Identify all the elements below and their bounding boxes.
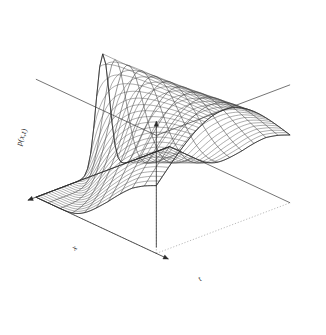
surface-plot-svg: x t p(x,t): [0, 0, 326, 335]
surface-border: [36, 54, 290, 214]
mesh-line: [91, 91, 211, 154]
box-edge: [170, 147, 290, 203]
mesh-line: [142, 112, 262, 163]
mesh-line: [164, 130, 284, 163]
mesh-line: [57, 152, 177, 198]
mesh-lines-x: [36, 54, 290, 214]
box-edge: [36, 79, 156, 135]
x-axis-arrowhead: [28, 196, 33, 200]
box-edge-hidden: [156, 203, 290, 254]
t-axis-label: t: [197, 274, 204, 283]
box-hidden-edges: [36, 135, 290, 253]
t-axis-line: [36, 197, 168, 259]
z-axis-label: p(x,t): [14, 127, 29, 147]
mesh-line: [161, 128, 281, 163]
x-axis-line: [28, 147, 170, 201]
mesh-line: [36, 186, 156, 214]
mesh-line: [106, 62, 226, 109]
t-axis-arrowhead: [163, 255, 168, 259]
x-axis-label: x: [70, 243, 78, 253]
surf-edge: [36, 186, 156, 214]
persp-plot-root: x t p(x,t): [0, 0, 326, 335]
